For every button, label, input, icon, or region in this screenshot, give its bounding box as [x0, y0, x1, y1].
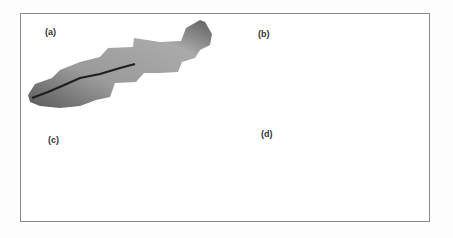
panel-b-label: (b) — [258, 29, 270, 39]
panel-a-label: (a) — [45, 27, 56, 37]
panel-d-label: (d) — [261, 129, 273, 139]
figure-maps — [0, 0, 453, 238]
panel-c-label: (c) — [48, 135, 59, 145]
